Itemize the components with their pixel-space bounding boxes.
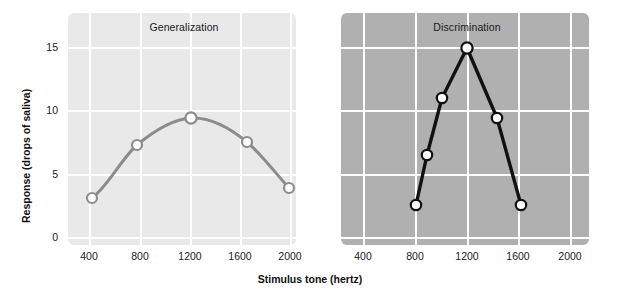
panel-title-discrimination: Discrimination <box>407 21 527 33</box>
panel-title-generalization: Generalization <box>124 21 244 33</box>
gridline-horizontal <box>68 110 296 112</box>
x-tick-label: 1200 <box>170 250 210 262</box>
x-tick-label: 2000 <box>270 250 310 262</box>
x-tick-label: 800 <box>395 250 435 262</box>
x-tick-label: 800 <box>120 250 160 262</box>
x-tick-label: 1600 <box>498 250 538 262</box>
gridline-horizontal <box>68 47 296 49</box>
axis-label-y: Response (drops of saliva) <box>20 89 32 223</box>
gridline-horizontal <box>341 237 589 239</box>
x-tick-label: 400 <box>343 250 383 262</box>
x-tick-label: 1600 <box>220 250 260 262</box>
x-tick-label: 2000 <box>550 250 590 262</box>
gridline-horizontal <box>341 110 589 112</box>
y-tick-label: 15 <box>26 41 58 53</box>
figure-container: Generalization 15 10 5 0 400 800 1200 16… <box>0 0 621 305</box>
x-tick-label: 1200 <box>447 250 487 262</box>
gridline-horizontal <box>341 47 589 49</box>
gridline-horizontal <box>68 174 296 176</box>
gridline-horizontal <box>341 174 589 176</box>
axis-label-x: Stimulus tone (hertz) <box>195 273 425 285</box>
y-tick-label: 0 <box>26 231 58 243</box>
gridline-horizontal <box>68 237 296 239</box>
x-tick-label: 400 <box>69 250 109 262</box>
